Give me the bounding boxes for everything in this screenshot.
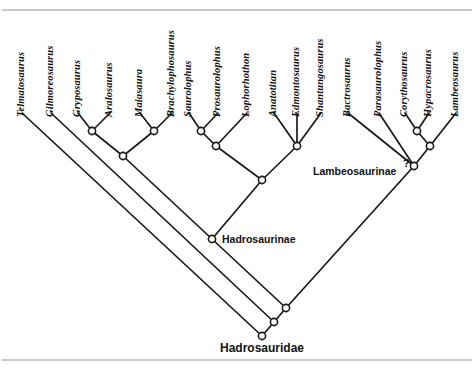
internal-branch-17 [262, 146, 297, 180]
taxon-label-saurolophus: Saurolophus [182, 60, 193, 117]
internal-branch-7 [123, 131, 154, 156]
taxon-label-bactrosaurus: Bactrosaurus [341, 57, 352, 117]
n-saurolophini [212, 142, 219, 149]
taxon-label-gryposaurus: Gryposaurus [71, 60, 82, 117]
n-edmontosaurini [293, 142, 300, 149]
n-lambeosaurini [426, 142, 433, 149]
n-corytho-hypacro [413, 127, 420, 134]
internal-branch-8 [123, 156, 212, 239]
taxon-label-hypacrosaurus: Hypacrosaurus [422, 49, 433, 117]
taxon-label-corythosaurus: Corythosaurus [398, 52, 409, 118]
taxon-label-brachylophosaurus: Brachylophosaurus [165, 30, 176, 117]
n-saurolophus-prosaurolophus [197, 127, 204, 134]
branch-gilmoreosaurus [51, 113, 274, 322]
internal-branch-13 [216, 146, 262, 180]
internal-branch-27 [286, 166, 414, 308]
branch-lines [22, 113, 456, 336]
branch-anatotitan [274, 113, 297, 146]
taxon-label-prosaurolophus: Prosaurolophus [211, 46, 222, 117]
clade-label-lambeosaurinae: Lambeosaurinae [313, 165, 396, 177]
branch-shantungosaurus [297, 113, 321, 146]
internal-branch-6 [92, 131, 123, 156]
n-maiasaura-brachylopho [150, 127, 157, 134]
branch-lophorhothon [216, 113, 247, 146]
n-gryposaurus-aralosaurus [88, 127, 95, 134]
taxon-label-maiasaura: Maiasaura [133, 69, 144, 117]
taxon-label-shantungosaurus: Shantungosaurus [314, 38, 325, 117]
taxon-label-lophorhothon: Lophorhothon [240, 53, 251, 117]
branch-telmatosaurus [22, 113, 262, 336]
branch-lambeosaurus [430, 113, 456, 146]
taxon-label-anatotitan: Anatotitan [267, 70, 278, 117]
n-hadrosaurine-crown [258, 176, 265, 183]
taxon-label-aralosaurus: Aralosaurus [103, 62, 114, 117]
n-hadrosauridae-crown [282, 304, 289, 311]
taxon-label-telmatosaurus: Telmatosaurus [15, 52, 26, 117]
taxon-label-edmontosaurus: Edmontosaurus [290, 47, 301, 117]
n-hadrosauridae-root [258, 332, 265, 339]
internal-branch-18 [212, 180, 262, 239]
clade-label-hadrosauridae: Hadrosauridae [220, 341, 304, 355]
taxon-label-lambeosaurus: Lambeosaurus [449, 52, 460, 117]
taxon-label-parasaurolophus: Parasaurolophus [372, 41, 383, 117]
cladogram-figure: TelmatosaurusGilmoreosaurusGryposaurusAr… [0, 0, 474, 373]
n-lambeosaurinae [410, 162, 417, 169]
uncertainty-question-mark: ? [403, 157, 410, 169]
n-hadrosaurinae [208, 235, 215, 242]
taxon-label-gilmoreosaurus: Gilmoreosaurus [44, 46, 55, 117]
n-brachylophosaurini [119, 152, 126, 159]
clade-label-hadrosaurinae: Hadrosaurinae [222, 233, 296, 245]
n-node-gilmoreosaurus [270, 318, 277, 325]
